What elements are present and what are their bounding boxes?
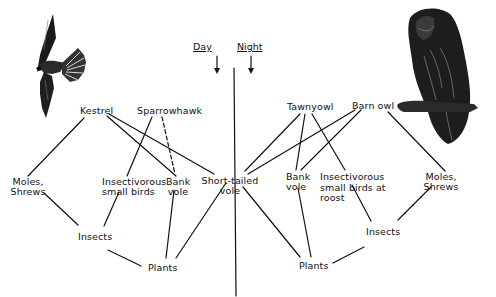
link-kestrel-shorttailedvole — [109, 114, 214, 174]
prey-insectivorous-roost-line1: Insectivorous — [320, 172, 386, 183]
link-bankvole-plants-right — [298, 188, 311, 257]
predator-barn-owl: Barn owl — [352, 101, 394, 111]
prey-short-tailed-vole-line2: vole — [201, 186, 259, 196]
prey-bank-vole-left-line2: vole — [166, 187, 190, 197]
link-barnowl-bankvole — [301, 110, 361, 170]
link-shorttailedvole-plants-right — [243, 187, 300, 257]
base-insects-right: Insects — [366, 227, 400, 237]
night-label: Night — [237, 41, 263, 52]
prey-bank-vole-right-line2: vole — [286, 182, 310, 192]
link-barnowl-shorttailedvole — [248, 110, 355, 174]
link-kestrel-moles — [28, 118, 84, 176]
prey-insectivorous-roost-line3: roost — [320, 193, 386, 204]
prey-short-tailed-vole: Short-tailed vole — [201, 176, 259, 196]
prey-insectivorous-small-birds: Insectivorous small birds — [102, 177, 166, 197]
predator-tawny-owl: Tawnyowl — [287, 102, 334, 112]
base-plants-right: Plants — [299, 261, 329, 271]
predator-sparrowhawk: Sparrowhawk — [137, 106, 202, 116]
prey-moles-shrews-left: Moles, Shrews — [8, 177, 48, 197]
food-web-diagram: Day Night Kestrel Sparrowhawk Tawnyowl B… — [0, 0, 496, 297]
prey-moles-shrews-right: Moles, Shrews — [422, 172, 460, 192]
predator-kestrel: Kestrel — [80, 106, 113, 116]
owl-illustration — [397, 8, 478, 144]
base-plants-left: Plants — [148, 263, 178, 273]
prey-insectivorous-small-birds-at-roost: Insectivorous small birds at roost — [320, 172, 386, 204]
link-moles-insects-left — [44, 193, 78, 225]
kestrel-illustration — [36, 14, 86, 118]
link-insectivorous-insects-left — [104, 192, 119, 226]
link-tawnyowl-shorttailedvole — [245, 114, 300, 171]
link-insects-plants-left — [108, 250, 141, 266]
prey-insectivorous-line2: small birds — [102, 187, 166, 197]
day-label: Day — [193, 41, 212, 52]
link-bankvole-plants-left — [166, 190, 174, 258]
day-arrow-head — [214, 68, 220, 74]
base-insects-left: Insects — [78, 232, 112, 242]
night-arrow-head — [248, 68, 254, 74]
link-insects-plants-right — [333, 247, 364, 263]
prey-moles-shrews-right-line2: Shrews — [422, 182, 460, 192]
prey-moles-shrews-left-line2: Shrews — [8, 187, 48, 197]
prey-bank-vole-right: Bank vole — [286, 172, 310, 192]
prey-bank-vole-left: Bank vole — [166, 177, 190, 197]
